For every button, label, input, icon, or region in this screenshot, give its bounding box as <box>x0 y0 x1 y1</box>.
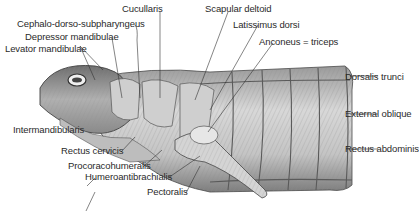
label-depressor-mandibulae: Depressor mandibulae <box>25 32 119 42</box>
label-scapular-deltoid: Scapular deltoid <box>205 4 272 14</box>
label-anconeus-triceps: Anconeus = triceps <box>259 37 338 47</box>
label-cephalo-dorso-subpharyngeus: Cephalo-dorso-subpharyngeus <box>17 19 145 29</box>
label-levator-mandibulae: Levator mandibulae <box>5 44 87 54</box>
label-procoracohumeralis: Procoracohumeralis <box>68 161 151 171</box>
elbow <box>190 126 218 144</box>
label-rectus-cervicis: Rectus cervicis <box>61 146 123 156</box>
label-humeroantibrachialis: Humeroantibrachialis <box>85 172 172 182</box>
label-intermandibularis: Intermandibularis <box>13 125 84 135</box>
label-latissimus-dorsi: Latissimus dorsi <box>233 20 300 30</box>
label-cucullaris: Cucullaris <box>122 4 163 14</box>
label-dorsalis-trunci: Dorsalis trunci <box>345 72 404 82</box>
label-pectoralis: Pectoralis <box>147 187 188 197</box>
label-external-oblique: External oblique <box>345 109 412 119</box>
label-rectus-abdominis: Rectus abdominis <box>345 144 419 154</box>
